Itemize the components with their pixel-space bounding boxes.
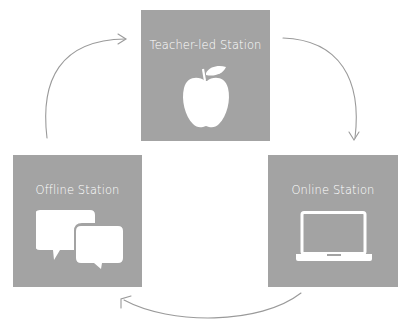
speech-bubbles-icon — [36, 209, 126, 271]
laptop-icon — [296, 211, 372, 263]
offline-station-label: Offline Station — [13, 183, 142, 197]
offline-station-box: Offline Station — [13, 155, 142, 287]
online-station-label: Online Station — [268, 183, 398, 197]
apple-icon — [181, 64, 231, 130]
arrowhead-online — [349, 132, 359, 140]
arrowhead-offline — [121, 296, 131, 308]
teacher-led-station-box: Teacher-led Station — [141, 10, 270, 141]
arrow-online-to-offline — [124, 293, 301, 318]
arrow-teacher-to-online — [283, 38, 356, 138]
arrow-offline-to-teacher — [46, 39, 125, 138]
online-station-box: Online Station — [268, 155, 398, 287]
teacher-led-station-label: Teacher-led Station — [141, 38, 270, 52]
